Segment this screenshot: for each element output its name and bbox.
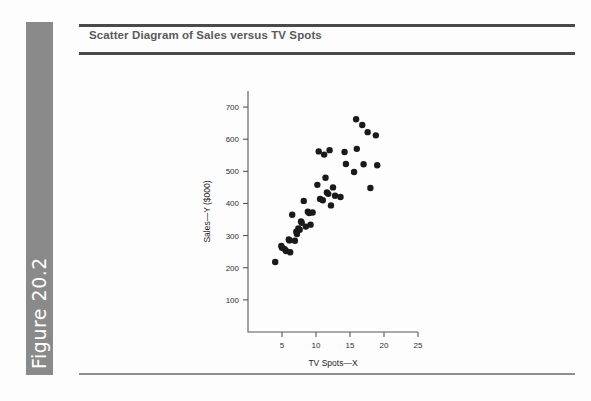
footer-rule	[79, 373, 575, 375]
figure-page: Figure 20.2 Scatter Diagram of Sales ver…	[0, 0, 591, 401]
figure-number-bar: Figure 20.2	[26, 22, 53, 375]
y-tick-label: 700	[226, 103, 240, 112]
data-point	[314, 182, 320, 188]
data-point	[296, 227, 302, 233]
data-point	[292, 238, 298, 244]
header-rule-top	[79, 24, 575, 27]
data-point	[309, 209, 315, 215]
data-point	[360, 161, 366, 167]
data-point	[289, 212, 295, 218]
x-tick-label: 15	[346, 341, 355, 350]
data-point	[330, 184, 336, 190]
data-point	[326, 147, 332, 153]
y-tick-label: 300	[226, 232, 240, 241]
data-point	[328, 202, 334, 208]
data-point	[351, 169, 357, 175]
data-point	[287, 249, 293, 255]
data-points	[272, 116, 380, 265]
data-point	[374, 162, 380, 168]
data-point	[373, 132, 379, 138]
x-axis-ticks: 510152025	[280, 332, 423, 350]
data-point	[325, 191, 331, 197]
scatter-plot-svg: 100200300400500600700 510152025 TV Spots…	[190, 70, 450, 370]
y-tick-label: 100	[226, 296, 240, 305]
data-point	[301, 198, 307, 204]
y-axis-ticks: 100200300400500600700	[226, 103, 248, 305]
data-point	[337, 194, 343, 200]
data-point	[316, 148, 322, 154]
data-point	[272, 259, 278, 265]
data-point	[367, 185, 373, 191]
data-point	[286, 237, 292, 243]
data-point	[341, 149, 347, 155]
y-axis-label: Sales—Y ($000)	[202, 180, 212, 242]
header-rule-bottom	[79, 52, 575, 55]
data-point	[359, 122, 365, 128]
data-point	[353, 116, 359, 122]
scatter-plot: 100200300400500600700 510152025 TV Spots…	[190, 70, 450, 370]
y-tick-label: 600	[226, 135, 240, 144]
data-point	[354, 146, 360, 152]
data-point	[320, 197, 326, 203]
data-point	[364, 129, 370, 135]
x-tick-label: 20	[380, 341, 389, 350]
y-tick-label: 400	[226, 199, 240, 208]
data-point	[332, 193, 338, 199]
y-tick-label: 500	[226, 167, 240, 176]
chart-title: Scatter Diagram of Sales versus TV Spots	[89, 29, 322, 41]
plot-axes	[248, 91, 418, 332]
x-tick-label: 10	[312, 341, 321, 350]
data-point	[307, 221, 313, 227]
data-point	[321, 151, 327, 157]
figure-number-label: Figure 20.2	[26, 22, 53, 375]
x-axis-label: TV Spots—X	[308, 358, 357, 368]
x-tick-label: 5	[280, 341, 285, 350]
data-point	[322, 175, 328, 181]
data-point	[343, 161, 349, 167]
x-tick-label: 25	[414, 341, 423, 350]
y-tick-label: 200	[226, 264, 240, 273]
